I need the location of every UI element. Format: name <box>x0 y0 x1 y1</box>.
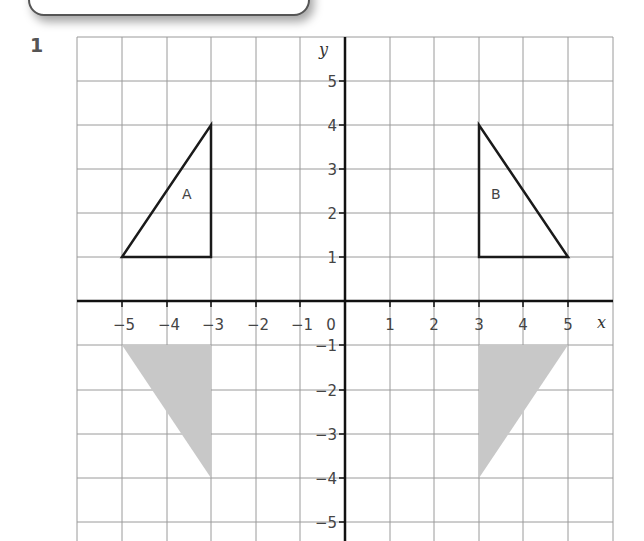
x-tick-label: −4 <box>158 316 180 334</box>
x-tick-label: 5 <box>563 316 573 334</box>
y-tick-label: −5 <box>315 514 337 532</box>
x-tick-label: −1 <box>291 316 313 334</box>
origin-label: 0 <box>326 316 336 334</box>
x-tick-label: −5 <box>113 316 135 334</box>
x-tick-label: −3 <box>202 316 224 334</box>
y-tick-label: −4 <box>315 470 337 488</box>
y-tick-label: 5 <box>327 73 337 91</box>
x-tick-label: 4 <box>518 316 528 334</box>
label-b: B <box>491 186 501 202</box>
y-tick-label: −1 <box>315 337 337 355</box>
y-tick-label: 1 <box>327 249 337 267</box>
x-tick-label: 1 <box>385 316 395 334</box>
x-tick-label: −2 <box>247 316 269 334</box>
y-axis-label: y <box>318 40 329 59</box>
y-tick-label: 3 <box>327 161 337 179</box>
y-tick-label: −3 <box>315 426 337 444</box>
coordinate-grid: A B y x 5 4 3 2 1 −1 −2 −3 −4 −5 −5 −4 −… <box>0 0 644 541</box>
x-tick-label: 3 <box>474 316 484 334</box>
x-axis-label: x <box>597 313 606 332</box>
y-tick-labels: 5 4 3 2 1 −1 −2 −3 −4 −5 <box>315 73 337 532</box>
label-a: A <box>182 186 192 202</box>
y-tick-label: 2 <box>327 205 337 223</box>
y-tick-label: 4 <box>327 117 337 135</box>
x-tick-label: 2 <box>429 316 439 334</box>
x-tick-labels: −5 −4 −3 −2 −1 0 1 2 3 4 5 <box>113 316 573 334</box>
y-tick-label: −2 <box>315 382 337 400</box>
